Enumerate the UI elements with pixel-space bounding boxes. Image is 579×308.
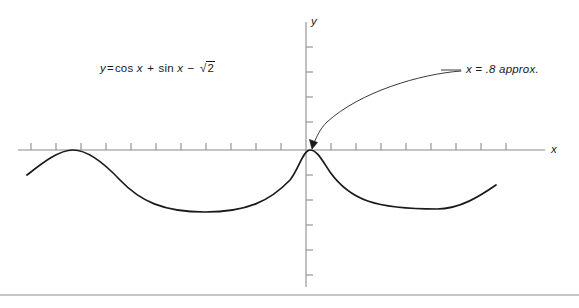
y-axis-label: y bbox=[311, 16, 317, 28]
equation-var-2: x bbox=[177, 62, 183, 74]
square-root-icon: √2 bbox=[199, 61, 215, 75]
y-axis-ticks bbox=[306, 47, 313, 275]
x-axis-label: x bbox=[551, 144, 557, 156]
figure-container: y=cos x + sin x − √2 x = .8 approx. x y bbox=[0, 0, 579, 308]
x-axis-ticks bbox=[31, 143, 506, 150]
equation-sin: sin bbox=[158, 62, 173, 74]
equation-equals: = bbox=[106, 62, 115, 74]
equation-plus: + bbox=[146, 62, 155, 74]
equation-label: y=cos x + sin x − √2 bbox=[100, 61, 215, 75]
equation-var-1: x bbox=[137, 62, 143, 74]
equation-minus: − bbox=[187, 62, 196, 74]
figure-canvas bbox=[0, 0, 579, 308]
approx-annotation-label: x = .8 approx. bbox=[466, 64, 539, 76]
annotation-arrow-curve bbox=[314, 71, 461, 143]
annotation-arrowhead bbox=[310, 140, 318, 150]
equation-cos: cos bbox=[115, 62, 134, 74]
equation-radicand: 2 bbox=[206, 61, 215, 75]
function-curve bbox=[27, 150, 496, 212]
